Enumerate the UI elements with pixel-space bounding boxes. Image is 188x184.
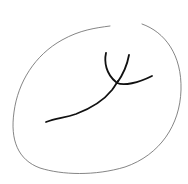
sketch-canvas — [0, 0, 188, 184]
right-branch-stroke — [117, 55, 152, 84]
oval-outline — [13, 24, 181, 174]
main-stroke — [46, 81, 118, 122]
left-branch-stroke — [105, 53, 116, 82]
